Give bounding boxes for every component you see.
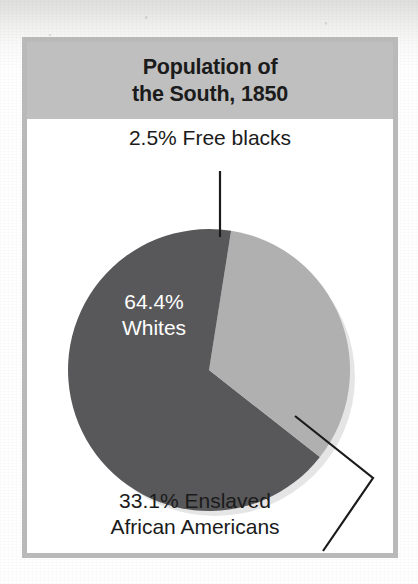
- pie-label-whites-name: Whites: [95, 315, 213, 341]
- chart-title-line-2: the South, 1850: [132, 81, 288, 108]
- pie-label-enslaved-line-2: African Americans: [27, 514, 363, 540]
- pie-label-enslaved-african-americans: 33.1% Enslaved African Americans: [27, 488, 363, 539]
- pie-label-whites-value: 64.4%: [95, 289, 213, 315]
- figure-card: Population of the South, 1850 2.5% Free …: [22, 37, 398, 558]
- pie-chart-plot-area: 2.5% Free blacks 64.4% Whites 33.1% Ensl…: [27, 119, 393, 553]
- pie-label-whites: 64.4% Whites: [95, 289, 213, 340]
- pie-label-free-blacks: 2.5% Free blacks: [27, 125, 393, 150]
- chart-title-line-1: Population of: [143, 54, 278, 81]
- pie-label-enslaved-line-1: 33.1% Enslaved: [27, 488, 363, 514]
- chart-title-band: Population of the South, 1850: [27, 42, 393, 119]
